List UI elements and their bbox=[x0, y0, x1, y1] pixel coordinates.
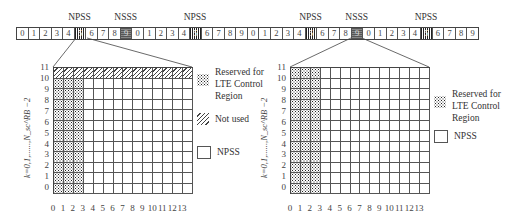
grid-cell-npss bbox=[84, 89, 94, 100]
grid-cell-npss bbox=[341, 173, 351, 184]
subframe-label-npss: NPSS bbox=[415, 12, 438, 22]
y-tick-label: 11 bbox=[37, 62, 49, 72]
grid-cell-npss bbox=[153, 142, 163, 153]
grid-cell-npss bbox=[351, 100, 361, 111]
y-tick-label: 3 bbox=[274, 149, 286, 159]
grid-cell-npss bbox=[94, 152, 104, 163]
grid-cell-npss bbox=[153, 184, 163, 195]
grid-cell-npss bbox=[331, 152, 341, 163]
grid-cell-npss bbox=[84, 100, 94, 111]
legend-swatch-ctrl bbox=[197, 74, 209, 86]
grid-cell-npss bbox=[84, 142, 94, 153]
grid-cell-npss bbox=[163, 184, 173, 195]
grid-cell-npss bbox=[390, 173, 400, 184]
subframe-cell: 6 bbox=[433, 28, 445, 39]
grid-cell-npss bbox=[410, 184, 420, 195]
grid-cell-lte-control bbox=[74, 152, 84, 163]
grid-cell-npss bbox=[410, 100, 420, 111]
grid-cell-npss bbox=[114, 163, 124, 174]
grid-cell-npss bbox=[380, 173, 390, 184]
grid-cell-npss bbox=[321, 68, 331, 79]
grid-cell-npss bbox=[400, 68, 410, 79]
grid-cell-lte-control bbox=[291, 163, 301, 174]
subframe-cell: 4 bbox=[294, 28, 306, 39]
grid-cell-npss bbox=[321, 121, 331, 132]
grid-cell-npss bbox=[370, 184, 380, 195]
grid-cell-npss bbox=[420, 131, 430, 142]
grid-cell-npss bbox=[341, 110, 351, 121]
y-tick-label: 9 bbox=[274, 84, 286, 94]
y-tick-label: 7 bbox=[37, 106, 49, 116]
x-tick-label: 5 bbox=[100, 203, 105, 213]
grid-cell-lte-control bbox=[301, 110, 311, 121]
subframe-cell: 7 bbox=[444, 28, 456, 39]
grid-cell-npss bbox=[153, 163, 163, 174]
x-tick-label: 10 bbox=[385, 203, 394, 213]
grid-cell-npss bbox=[331, 163, 341, 174]
subframe-cell: 7 bbox=[329, 28, 341, 39]
grid-cell-lte-control bbox=[74, 121, 84, 132]
grid-cell-npss bbox=[84, 163, 94, 174]
grid-cell-lte-control bbox=[301, 173, 311, 184]
grid-cell-lte-control bbox=[311, 173, 321, 184]
grid-cell-not-used bbox=[183, 68, 193, 79]
grid-cell-npss bbox=[133, 163, 143, 174]
grid-cell-npss bbox=[380, 110, 390, 121]
legend-item-ctrl: Reserved forLTE ControlRegion bbox=[197, 66, 264, 102]
grid-cell-npss bbox=[84, 184, 94, 195]
grid-cell-lte-control bbox=[311, 142, 321, 153]
grid-cell-npss bbox=[420, 89, 430, 100]
y-tick-label: 5 bbox=[37, 128, 49, 138]
grid-cell-npss bbox=[173, 173, 183, 184]
grid-cell-npss bbox=[123, 79, 133, 90]
grid-cell-npss bbox=[163, 152, 173, 163]
subframe-strip: 0123456789012345678901234567890123456789 bbox=[16, 27, 479, 40]
grid-cell-npss bbox=[123, 142, 133, 153]
grid-cell-lte-control bbox=[311, 79, 321, 90]
grid-cell-npss bbox=[380, 68, 390, 79]
x-tick-label: 9 bbox=[140, 203, 145, 213]
legend-label: NPSS bbox=[454, 130, 477, 142]
grid-cell-npss bbox=[380, 121, 390, 132]
grid-cell-npss bbox=[420, 79, 430, 90]
grid-cell-npss bbox=[104, 89, 114, 100]
grid-cell-lte-control bbox=[54, 142, 64, 153]
grid-cell-npss bbox=[390, 163, 400, 174]
grid-cell-npss bbox=[173, 152, 183, 163]
x-tick-label: 1 bbox=[61, 203, 66, 213]
grid-cell-npss bbox=[163, 131, 173, 142]
grid-cell-lte-control bbox=[74, 79, 84, 90]
subframe-cell: 0 bbox=[363, 28, 375, 39]
grid-cell-npss bbox=[400, 100, 410, 111]
subframe-cell: 3 bbox=[52, 28, 64, 39]
grid-cell-lte-control bbox=[311, 152, 321, 163]
grid-cell-npss bbox=[321, 110, 331, 121]
grid-cell-npss bbox=[390, 100, 400, 111]
grid-cell-npss bbox=[341, 89, 351, 100]
grid-cell-npss bbox=[133, 121, 143, 132]
grid-cell-not-used bbox=[54, 68, 64, 79]
x-tick-label: 6 bbox=[347, 203, 352, 213]
grid-cell-lte-control bbox=[301, 89, 311, 100]
grid-cell-npss bbox=[143, 100, 153, 111]
subframe-cell: 8 bbox=[456, 28, 468, 39]
grid-cell-npss bbox=[173, 163, 183, 174]
grid-cell-npss bbox=[420, 173, 430, 184]
x-tick-label: 4 bbox=[327, 203, 332, 213]
grid-cell-npss bbox=[94, 121, 104, 132]
grid-cell-not-used bbox=[143, 68, 153, 79]
grid-cell-npss bbox=[400, 173, 410, 184]
subframe-cell: 4 bbox=[63, 28, 75, 39]
grid-cell-npss bbox=[133, 152, 143, 163]
grid-cell-npss bbox=[84, 110, 94, 121]
grid-cell-npss bbox=[183, 142, 193, 153]
grid-cell-npss bbox=[114, 142, 124, 153]
grid-cell-npss bbox=[360, 142, 370, 153]
grid-cell-lte-control bbox=[74, 163, 84, 174]
grid-cell-lte-control bbox=[64, 89, 74, 100]
grid-cell-npss bbox=[360, 79, 370, 90]
grid-cell-npss bbox=[321, 89, 331, 100]
grid-cell-npss bbox=[390, 68, 400, 79]
x-tick-label: 12 bbox=[405, 203, 414, 213]
grid-cell-npss bbox=[123, 184, 133, 195]
